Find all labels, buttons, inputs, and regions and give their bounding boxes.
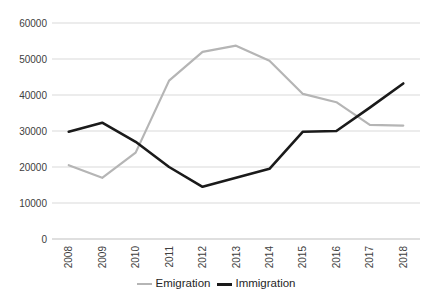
- legend-item-immigration: Immigration: [217, 278, 295, 290]
- y-tick-label: 50000: [19, 54, 47, 65]
- y-tick-label: 40000: [19, 90, 47, 101]
- x-tick-label: 2016: [331, 246, 342, 269]
- chart-figure: 0100002000030000400005000060000200820092…: [0, 0, 433, 305]
- y-tick-label: 20000: [19, 162, 47, 173]
- legend-item-emigration: Emigration: [137, 278, 210, 290]
- y-tick-label: 60000: [19, 18, 47, 29]
- chart-canvas: 0100002000030000400005000060000200820092…: [0, 0, 433, 272]
- immigration-line-swatch: [217, 283, 232, 286]
- series-line-emigration: [69, 46, 404, 178]
- y-tick-label: 10000: [19, 198, 47, 209]
- x-tick-label: 2018: [398, 246, 409, 269]
- series-line-immigration: [69, 83, 404, 186]
- x-tick-label: 2009: [97, 246, 108, 269]
- x-tick-label: 2011: [164, 246, 175, 268]
- x-tick-label: 2014: [264, 246, 275, 269]
- legend-label-immigration: Immigration: [235, 278, 295, 290]
- emigration-line-swatch: [137, 283, 152, 285]
- x-tick-label: 2008: [63, 246, 74, 269]
- x-tick-label: 2015: [297, 246, 308, 269]
- x-tick-label: 2012: [197, 246, 208, 269]
- y-tick-label: 30000: [19, 126, 47, 137]
- chart-legend: Emigration Immigration: [0, 272, 433, 296]
- y-tick-label: 0: [41, 234, 47, 245]
- x-tick-label: 2017: [364, 246, 375, 269]
- legend-label-emigration: Emigration: [155, 278, 210, 290]
- x-tick-label: 2013: [231, 246, 242, 269]
- x-tick-label: 2010: [130, 246, 141, 269]
